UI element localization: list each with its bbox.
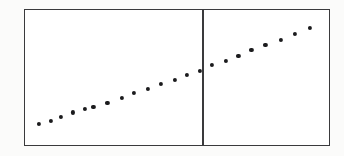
data-point [146, 86, 150, 90]
data-point [293, 32, 297, 36]
data-point [210, 63, 214, 67]
data-point [236, 54, 240, 58]
data-point [308, 26, 312, 30]
data-point [249, 48, 253, 52]
data-point [263, 43, 267, 47]
data-point [159, 82, 163, 86]
data-point [71, 110, 75, 114]
plot-frame [24, 9, 330, 146]
data-point [224, 59, 228, 63]
data-point [120, 96, 124, 100]
data-point [59, 115, 63, 119]
scatter-plot-figure [0, 0, 344, 156]
data-point [37, 122, 41, 126]
data-point [279, 37, 283, 41]
vertical-divider [202, 10, 204, 145]
data-point [105, 101, 109, 105]
data-point [185, 72, 189, 76]
data-point [173, 78, 177, 82]
data-point [132, 91, 136, 95]
data-point [82, 107, 86, 111]
data-point [91, 105, 95, 109]
data-point [49, 119, 53, 123]
plot-canvas [25, 10, 329, 145]
